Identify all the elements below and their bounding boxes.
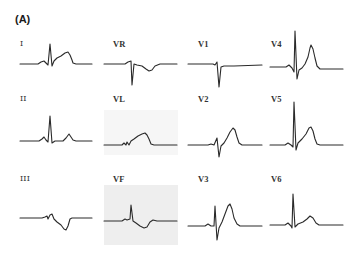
trace-lead-v5 xyxy=(270,102,343,150)
ecg-traces xyxy=(0,0,360,256)
trace-lead-i xyxy=(20,44,92,66)
trace-lead-v3 xyxy=(188,204,262,240)
trace-lead-v1 xyxy=(188,62,262,87)
trace-lead-ii xyxy=(20,116,92,143)
trace-lead-v4 xyxy=(270,31,343,79)
trace-lead-vr xyxy=(104,61,177,85)
ecg-figure: (A) I VR V1 V4 II VL V2 V5 III VF V3 V6 xyxy=(0,0,360,256)
trace-lead-vf xyxy=(104,205,177,228)
trace-lead-v2 xyxy=(188,128,262,157)
trace-lead-v6 xyxy=(270,194,343,228)
trace-lead-iii xyxy=(20,214,92,230)
trace-lead-vl xyxy=(104,133,177,145)
